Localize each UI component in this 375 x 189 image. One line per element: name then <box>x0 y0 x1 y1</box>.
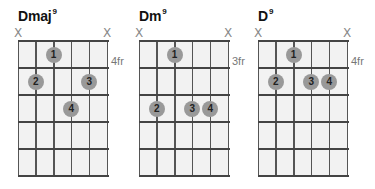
string-line <box>329 41 331 177</box>
fret-line <box>139 175 230 177</box>
string-line <box>107 41 109 177</box>
fret-line <box>18 175 109 177</box>
fret-line <box>18 94 109 96</box>
string-line <box>18 41 20 177</box>
fret-position-label: 4fr <box>351 55 364 67</box>
chord-extension-label: 9 <box>162 7 166 16</box>
fretboard-grid: 1234 <box>139 41 228 176</box>
chord-name: Dm9 <box>139 8 166 24</box>
chord-extension-label: 9 <box>269 7 273 16</box>
muted-string-icon: X <box>13 27 23 39</box>
chord-diagram-d9: D9XX12344fr <box>240 0 365 189</box>
finger-dot: 2 <box>28 74 44 90</box>
chord-name: D9 <box>258 8 273 24</box>
fret-line <box>258 175 349 177</box>
muted-string-icon: X <box>223 27 233 39</box>
chord-extension-label: 9 <box>52 7 56 16</box>
string-line <box>275 41 277 177</box>
finger-dot: 1 <box>286 47 302 63</box>
fret-line <box>139 148 230 150</box>
string-line <box>228 41 230 177</box>
fretboard-grid: 1234 <box>258 41 347 176</box>
muted-string-icon: X <box>134 27 144 39</box>
finger-dot: 4 <box>202 101 218 117</box>
fretboard-grid: 1234 <box>18 41 107 176</box>
chord-diagram-dm9: Dm9XX12343fr <box>120 0 245 189</box>
fret-line <box>258 67 349 69</box>
string-line <box>89 41 91 177</box>
muted-string-icon: X <box>253 27 263 39</box>
string-line <box>347 41 349 177</box>
fret-line <box>18 148 109 150</box>
finger-dot: 3 <box>81 74 97 90</box>
finger-dot: 3 <box>303 74 319 90</box>
chord-root-label: Dm <box>139 8 161 24</box>
string-line <box>311 41 313 177</box>
finger-dot: 1 <box>167 47 183 63</box>
chord-root-label: Dmaj <box>18 8 51 24</box>
fret-line <box>18 40 109 42</box>
chord-diagram-dmaj9: Dmaj9XX12344fr <box>0 0 125 189</box>
fret-line <box>258 94 349 96</box>
fret-line <box>18 121 109 123</box>
fret-line <box>139 40 230 42</box>
fret-line <box>139 94 230 96</box>
finger-dot: 2 <box>149 101 165 117</box>
finger-dot: 3 <box>184 101 200 117</box>
string-line <box>139 41 141 177</box>
finger-dot: 4 <box>321 74 337 90</box>
fret-line <box>258 148 349 150</box>
muted-string-icon: X <box>102 27 112 39</box>
fret-line <box>258 40 349 42</box>
finger-dot: 4 <box>63 101 79 117</box>
fret-line <box>18 67 109 69</box>
finger-dot: 2 <box>268 74 284 90</box>
string-line <box>258 41 260 177</box>
fret-line <box>258 121 349 123</box>
muted-string-icon: X <box>342 27 352 39</box>
fret-line <box>139 67 230 69</box>
finger-dot: 1 <box>46 47 62 63</box>
chord-name: Dmaj9 <box>18 8 57 24</box>
chord-root-label: D <box>258 8 268 24</box>
fret-line <box>139 121 230 123</box>
string-line <box>35 41 37 177</box>
